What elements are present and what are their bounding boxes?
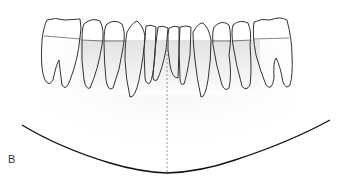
diagram-canvas bbox=[0, 0, 341, 184]
panel-label: B bbox=[8, 153, 15, 165]
cej-line bbox=[254, 38, 289, 39]
dental-arch-diagram: B bbox=[0, 0, 341, 184]
cej-line bbox=[44, 36, 81, 39]
